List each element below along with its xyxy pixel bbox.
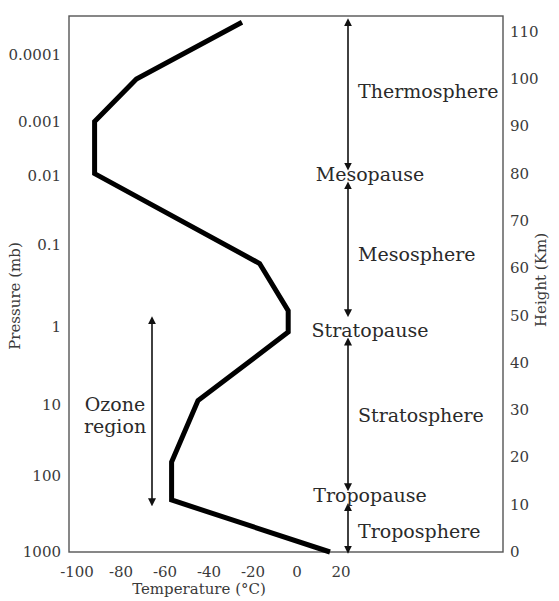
x-axis-ticks: -100-80-60-40-20020 [60, 563, 350, 581]
height-tick-label: 90 [510, 117, 529, 135]
pressure-tick-label: 0.1 [37, 236, 61, 254]
height-tick-label: 80 [510, 165, 529, 183]
height-tick-label: 10 [510, 496, 529, 514]
atmosphere-temperature-chart: -100-80-60-40-20020 01020304050607080901… [0, 0, 559, 601]
ozone-label-line2: region [84, 415, 146, 437]
boundary-label: Mesopause [316, 163, 425, 185]
x-tick-label: -100 [60, 563, 94, 581]
left-axis-label: Pressure (mb) [6, 242, 24, 350]
height-tick-label: 30 [510, 401, 529, 419]
temperature-profile-line [95, 22, 330, 552]
x-tick-label: -20 [241, 563, 265, 581]
boundary-label: Stratopause [312, 319, 429, 341]
layer-label: Stratosphere [358, 404, 484, 426]
pressure-tick-label: 0.01 [28, 167, 61, 185]
height-tick-label: 100 [510, 70, 539, 88]
x-tick-label: -60 [153, 563, 177, 581]
height-tick-label: 20 [510, 448, 529, 466]
pressure-tick-label: 0.001 [18, 113, 61, 131]
height-tick-label: 40 [510, 354, 529, 372]
boundary-label: Tropopause [313, 484, 427, 506]
right-axis-label: Height (Km) [532, 233, 550, 327]
x-tick-label: -40 [197, 563, 221, 581]
layer-label: Thermosphere [358, 80, 498, 102]
pressure-tick-label: 100 [32, 467, 61, 485]
pressure-tick-label: 10 [42, 396, 61, 414]
x-tick-label: 0 [292, 563, 302, 581]
pressure-tick-label: 0.0001 [9, 46, 62, 64]
ozone-label-line1: Ozone [85, 393, 146, 415]
x-tick-label: 20 [331, 563, 350, 581]
layer-annotations: ThermosphereMesosphereStratosphereTropos… [84, 22, 499, 549]
pressure-tick-label: 1000 [23, 543, 61, 561]
height-tick-label: 70 [510, 212, 529, 230]
pressure-tick-label: 1 [51, 318, 61, 336]
height-tick-label: 60 [510, 259, 529, 277]
height-tick-label: 50 [510, 307, 529, 325]
height-tick-label: 110 [510, 23, 539, 41]
height-tick-label: 0 [510, 543, 520, 561]
x-tick-label: -80 [109, 563, 133, 581]
x-axis-label: Temperature (°C) [132, 580, 266, 598]
layer-label: Troposphere [358, 520, 481, 542]
layer-label: Mesosphere [358, 243, 476, 265]
